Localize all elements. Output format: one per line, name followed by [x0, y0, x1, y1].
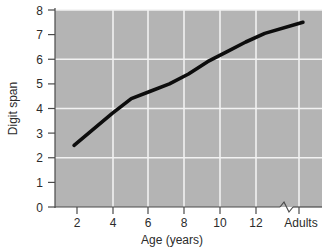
- y-tick-label-4: 4: [36, 102, 43, 116]
- x-tick-label-12: 12: [249, 216, 263, 230]
- y-tick-labels: 8 7 6 5 4 3 2 1 0: [36, 4, 43, 215]
- x-tick-label-8: 8: [181, 216, 188, 230]
- chart-canvas: 8 7 6 5 4 3 2 1 0 2 4 6 8 10: [0, 0, 334, 249]
- x-tick-label-2: 2: [74, 216, 81, 230]
- y-tick-label-7: 7: [36, 28, 43, 42]
- y-tick-label-8: 8: [36, 4, 43, 18]
- y-tick-label-6: 6: [36, 53, 43, 67]
- x-tick-label-6: 6: [145, 216, 152, 230]
- x-tick-label-4: 4: [110, 216, 117, 230]
- y-tick-label-3: 3: [36, 127, 43, 141]
- y-tick-label-5: 5: [36, 77, 43, 91]
- x-tick-label-10: 10: [213, 216, 227, 230]
- y-tick-label-1: 1: [36, 176, 43, 190]
- y-axis-title: Digit span: [6, 82, 20, 135]
- digit-span-line-chart: 8 7 6 5 4 3 2 1 0 2 4 6 8 10: [0, 0, 334, 249]
- x-tick-label-adults: Adults: [284, 216, 317, 230]
- y-tick-label-2: 2: [36, 151, 43, 165]
- y-tick-label-0: 0: [36, 201, 43, 215]
- x-axis-title: Age (years): [141, 233, 203, 247]
